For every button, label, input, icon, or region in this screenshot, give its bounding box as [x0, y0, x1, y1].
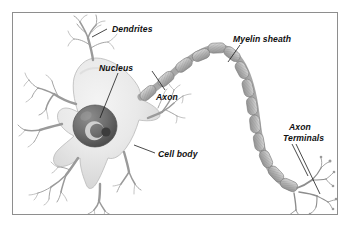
axon-myelin-sheath	[138, 43, 299, 194]
neuron-diagram-figure: Dendrites Nucleus Axon Myelin sheath Cel…	[0, 0, 351, 228]
dendrite-lower-right	[113, 152, 141, 194]
label-axon-terminals-line1: Axon	[288, 122, 311, 132]
label-myelin-sheath: Myelin sheath	[233, 34, 291, 44]
dendrite-lower-left	[29, 158, 78, 205]
leader-dendrites	[92, 29, 107, 37]
dendrite-bottom	[88, 184, 111, 218]
label-axon-terminals-line2: Terminals	[283, 133, 324, 143]
neuron-illustration: Dendrites Nucleus Axon Myelin sheath Cel…	[0, 0, 351, 228]
label-cell-body: Cell body	[158, 149, 199, 159]
leader-cell-body	[134, 145, 155, 153]
leader-axon-terminals-a	[292, 144, 308, 176]
label-nucleus: Nucleus	[99, 63, 133, 73]
dendrite-left	[18, 124, 62, 147]
nucleus-organelle	[73, 105, 117, 147]
dendrite-top	[68, 15, 117, 60]
label-axon: Axon	[155, 92, 178, 102]
label-dendrites: Dendrites	[112, 24, 153, 34]
myelin-segment-group	[138, 43, 299, 194]
